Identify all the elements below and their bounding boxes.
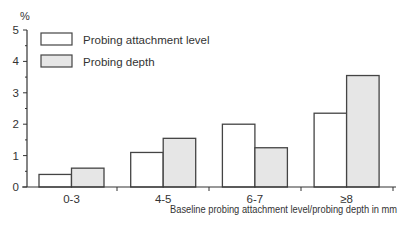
bar-probing-depth-2	[255, 148, 288, 187]
bar-probing-depth-3	[347, 76, 380, 187]
y-tick-label: 5	[13, 24, 19, 36]
y-tick-label: 3	[13, 87, 19, 99]
bar-attachment-level-3	[314, 113, 347, 187]
x-tick-label: 0-3	[63, 193, 80, 205]
bars	[39, 76, 379, 187]
bar-attachment-level-2	[222, 124, 255, 187]
legend: Probing attachment levelProbing depth	[41, 33, 210, 68]
x-axis-label: Baseline probing attachment level/probin…	[170, 203, 397, 215]
legend-label-1: Probing depth	[83, 56, 155, 68]
legend-swatch-1	[41, 55, 72, 67]
y-tick-label: 0	[13, 181, 19, 193]
legend-label-0: Probing attachment level	[83, 34, 210, 46]
y-axis-label: %	[20, 10, 30, 22]
y-axis: 012345	[13, 24, 27, 193]
y-tick-label: 4	[13, 55, 20, 67]
bar-probing-depth-1	[163, 138, 196, 187]
legend-swatch-0	[41, 33, 72, 45]
y-tick-label: 2	[13, 118, 19, 130]
bar-probing-depth-0	[72, 168, 105, 187]
y-tick-label: 1	[13, 150, 19, 162]
bar-chart: 012345 0-34-56-7≥8 Probing attachment le…	[0, 0, 404, 230]
bar-attachment-level-0	[39, 174, 72, 187]
bar-attachment-level-1	[131, 152, 164, 187]
